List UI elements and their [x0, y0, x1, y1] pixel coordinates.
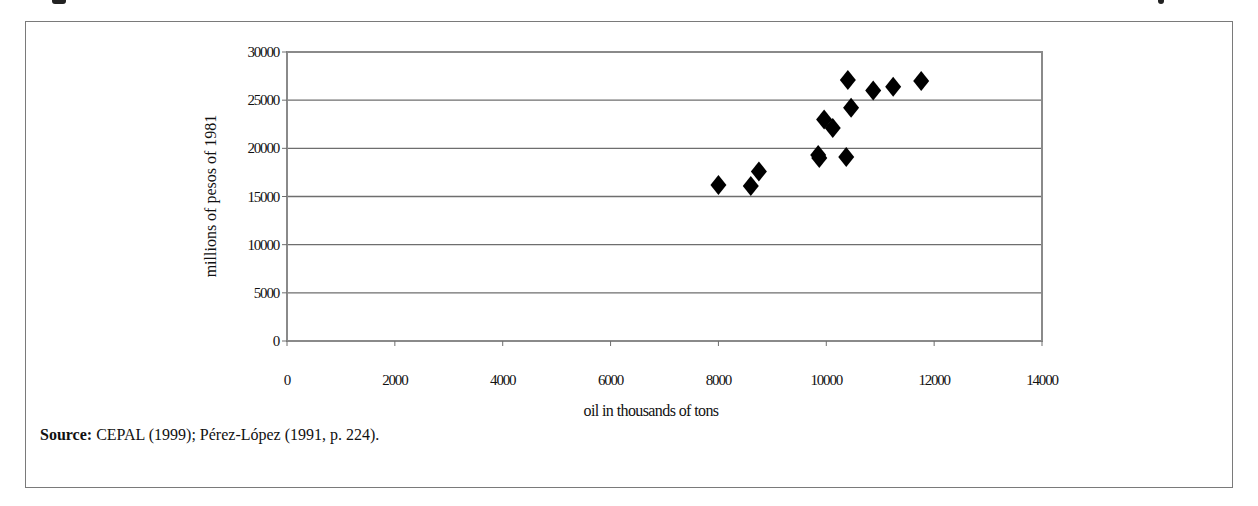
y-tick-label: 5000 — [254, 285, 280, 301]
x-tick-label: 4000 — [490, 372, 516, 388]
x-axis: 02000400060008000100001200014000 — [284, 341, 1059, 388]
data-point-diamond — [838, 147, 854, 167]
data-point-diamond — [710, 175, 726, 195]
y-tick-label: 30000 — [247, 44, 279, 60]
y-tick-label: 0 — [273, 333, 280, 349]
data-point-diamond — [751, 161, 767, 181]
x-tick-label: 2000 — [382, 372, 408, 388]
source-text: CEPAL (1999); Pérez-López (1991, p. 224)… — [92, 426, 379, 443]
data-point-diamond — [840, 70, 856, 90]
data-point-diamond — [885, 77, 901, 97]
x-axis-title: oil in thousands of tons — [584, 402, 719, 419]
source-note: Source: CEPAL (1999); Pérez-López (1991,… — [40, 426, 379, 444]
y-tick-label: 15000 — [247, 189, 279, 205]
y-tick-label: 10000 — [247, 237, 279, 253]
source-label: Source: — [40, 426, 92, 443]
data-points — [710, 70, 929, 196]
data-point-diamond — [913, 71, 929, 91]
y-tick-label: 20000 — [247, 140, 279, 156]
data-point-diamond — [843, 98, 859, 118]
y-axis: 050001000015000200002500030000 — [247, 44, 287, 349]
x-tick-label: 14000 — [1026, 372, 1058, 388]
x-tick-label: 0 — [284, 372, 291, 388]
y-axis-title: millions of pesos of 1981 — [202, 115, 220, 278]
x-tick-label: 6000 — [598, 372, 624, 388]
x-tick-label: 10000 — [811, 372, 843, 388]
gridlines — [287, 100, 1042, 293]
data-point-diamond — [865, 81, 881, 101]
x-tick-label: 12000 — [918, 372, 950, 388]
x-tick-label: 8000 — [706, 372, 732, 388]
y-tick-label: 25000 — [247, 92, 279, 108]
data-point-diamond — [743, 176, 759, 196]
